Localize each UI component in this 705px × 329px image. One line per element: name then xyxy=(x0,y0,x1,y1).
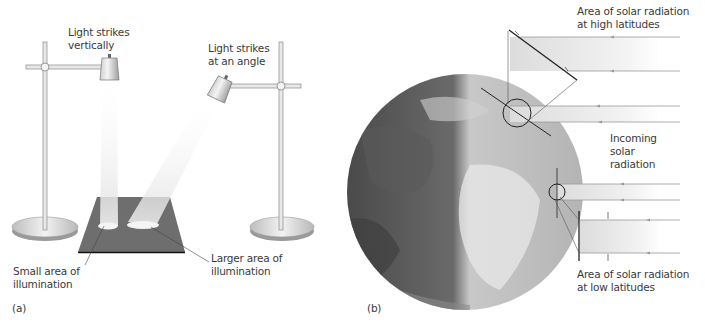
low-latitude-ray-band xyxy=(580,220,660,253)
large-illumination-spot xyxy=(127,221,159,229)
panel-b-tag: (b) xyxy=(367,302,381,315)
label-incoming-solar-radiation: Incoming solar radiation xyxy=(610,132,657,171)
right-stand-arm xyxy=(228,84,301,88)
vertical-light-beam xyxy=(100,82,118,226)
label-line: illumination xyxy=(211,265,282,278)
high-latitude-ray-band xyxy=(510,37,660,71)
label-light-strikes-at-angle: Light strikes at an angle xyxy=(208,42,269,68)
label-line: Incoming xyxy=(610,132,657,145)
label-line: solar xyxy=(610,145,657,158)
label-line: at high latitudes xyxy=(577,18,689,31)
label-light-strikes-vertically: Light strikes vertically xyxy=(68,26,129,52)
lamp-vertical xyxy=(100,54,119,80)
label-larger-area-illumination: Larger area of illumination xyxy=(211,252,282,278)
label-low-latitudes: Area of solar radiation at low latitudes xyxy=(577,268,689,294)
panel-a-tag: (a) xyxy=(12,302,26,315)
left-stand-arm xyxy=(26,65,102,69)
label-line: Light strikes xyxy=(68,26,129,39)
label-line: illumination xyxy=(13,278,80,291)
incoming-upper-band xyxy=(510,106,660,122)
label-line: vertically xyxy=(68,39,129,52)
label-line: Area of solar radiation xyxy=(577,268,689,281)
label-line: at an angle xyxy=(208,55,269,68)
incoming-lower-band xyxy=(557,184,660,200)
panel-a-illustration xyxy=(12,42,314,265)
small-illumination-spot xyxy=(98,223,118,230)
label-line: Light strikes xyxy=(208,42,269,55)
label-line: radiation xyxy=(610,158,657,171)
label-line: Area of solar radiation xyxy=(577,5,689,18)
right-stand-pole xyxy=(279,42,283,230)
label-high-latitudes: Area of solar radiation at high latitude… xyxy=(577,5,689,31)
label-line: Small area of xyxy=(13,265,80,278)
label-line: at low latitudes xyxy=(577,281,689,294)
label-line: Larger area of xyxy=(211,252,282,265)
label-small-area-illumination: Small area of illumination xyxy=(13,265,80,291)
